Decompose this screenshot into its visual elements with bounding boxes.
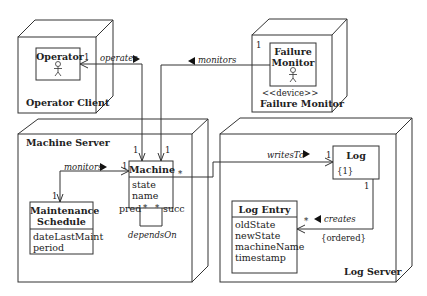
operates-mult-machine: 1: [133, 145, 138, 156]
creates-direction-icon: [314, 215, 321, 223]
machine-attr-state: state: [132, 179, 156, 190]
machine-server-label: Machine Server: [26, 137, 110, 148]
log-server-label: Log Server: [344, 266, 401, 277]
failure-monitor-name-2: Monitor: [270, 57, 316, 68]
creates-label: creates: [324, 214, 356, 225]
monitors-maint-label: monitors: [64, 162, 102, 173]
writesto-mult-log: 1: [326, 150, 331, 161]
operator-actor-icon: [54, 62, 62, 77]
log-entry-attr-oldstate: oldState: [235, 219, 275, 230]
log-entry-attr-machinename: machineName: [235, 241, 305, 252]
creates-constraint: {ordered}: [321, 233, 366, 244]
monitors-failure-label: monitors: [198, 55, 236, 66]
log-constraint: {1}: [337, 166, 353, 177]
monitors-failure-mult-machine: 1: [165, 145, 170, 156]
failure-monitor-multiplicity: 1: [256, 40, 261, 51]
dependson-label: dependsOn: [128, 230, 177, 241]
maintenance-name-2: Schedule: [30, 216, 93, 227]
creates-mult-entry: *: [304, 216, 308, 227]
writesto-label: writesTo: [267, 150, 304, 161]
writesto-direction-icon: [303, 150, 310, 158]
succ-role: succ: [163, 203, 185, 214]
failure-monitor-node-label: Failure Monitor: [260, 98, 344, 109]
machine-attr-name: name: [132, 190, 158, 201]
pred-mult: *: [143, 203, 147, 214]
failure-monitor-name-1: Failure: [270, 46, 316, 57]
log-entry-class-name: Log Entry: [232, 204, 297, 215]
succ-mult: *: [155, 203, 159, 214]
writesto-mult-machine: *: [178, 169, 182, 180]
maintenance-attr-datelastmaint: dateLastMaint: [33, 231, 103, 242]
operator-multiplicity: 1: [84, 52, 89, 63]
maintenance-name-1: Maintenance: [30, 205, 93, 216]
operator-client-label: Operator Client: [26, 97, 109, 108]
creates-mult-log: 1: [364, 181, 369, 192]
machine-class-name: Machine: [129, 164, 173, 175]
operator-component-name: Operator: [36, 51, 80, 62]
log-class-name: Log: [333, 150, 379, 161]
maintenance-attr-period: period: [33, 242, 64, 253]
monitors-maint-mult-machine: 1: [122, 161, 127, 172]
monitors-maint-mult-maint: 1: [52, 191, 57, 202]
log-entry-attr-newstate: newState: [235, 230, 280, 241]
monitors-failure-direction-icon: [188, 57, 195, 65]
operates-label: operates: [100, 53, 138, 64]
pred-role: pred: [119, 203, 141, 214]
log-entry-attr-timestamp: timestamp: [235, 252, 286, 263]
failure-monitor-actor-icon: [289, 68, 297, 83]
